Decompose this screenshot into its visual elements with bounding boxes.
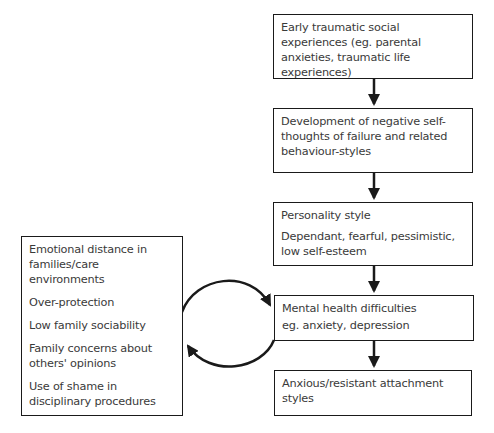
box-family-factors: Emotional distance in families/care envi… xyxy=(21,236,183,416)
family-factor-item: Emotional distance in families/care envi… xyxy=(29,242,175,287)
box-heading: Personality style xyxy=(281,208,465,223)
box-early-traumatic-experiences: Early traumatic social experiences (eg. … xyxy=(273,14,473,79)
box-text: Anxious/resistant attachment styles xyxy=(282,376,464,406)
family-factor-item: Over-protection xyxy=(29,295,175,310)
family-factor-item: Family concerns about others' opinions xyxy=(29,341,175,371)
box-negative-self-thoughts: Development of negative self-thoughts of… xyxy=(273,108,473,173)
box-heading: Mental health difficulties xyxy=(282,301,466,316)
family-factor-item: Low family sociability xyxy=(29,318,175,333)
box-text: Dependant, fearful, pessimistic, low sel… xyxy=(281,229,465,259)
box-text: Development of negative self-thoughts of… xyxy=(281,114,465,159)
curved-arrow-family-to-mental-health xyxy=(182,281,270,312)
box-attachment-styles: Anxious/resistant attachment styles xyxy=(274,370,472,416)
box-mental-health-difficulties: Mental health difficulties eg. anxiety, … xyxy=(274,295,474,341)
curved-arrow-mental-health-to-family xyxy=(188,340,274,367)
family-factor-item: Use of shame in disciplinary procedures xyxy=(29,379,175,409)
box-text: eg. anxiety, depression xyxy=(282,318,466,333)
box-personality-style: Personality style Dependant, fearful, pe… xyxy=(273,202,473,266)
box-text: Early traumatic social experiences (eg. … xyxy=(281,20,465,80)
